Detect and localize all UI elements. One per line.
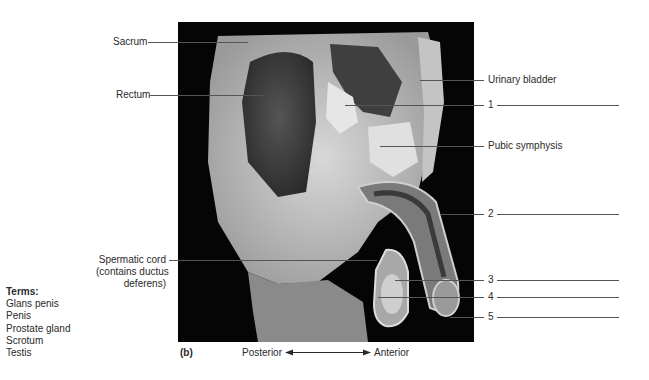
label-urinary-bladder: Urinary bladder [488, 74, 556, 86]
term-item: Testis [6, 347, 71, 359]
term-item: Scrotum [6, 335, 71, 347]
label-spermatic-cord-line3: deferens) [96, 278, 166, 290]
terms-heading: Terms: [6, 286, 71, 298]
answer-line-1[interactable] [497, 105, 619, 106]
orientation-indicator: Posterior Anterior [242, 347, 409, 358]
label-spermatic-cord-line1: Spermatic cord [96, 254, 166, 266]
label-spermatic-cord-line2: (contains ductus [96, 266, 166, 278]
label-sacrum: Sacrum [113, 36, 147, 48]
label-rectum: Rectum [116, 89, 150, 101]
answer-line-4[interactable] [497, 297, 619, 298]
orientation-posterior: Posterior [242, 347, 282, 358]
orientation-anterior: Anterior [374, 347, 409, 358]
label-pubic-symphysis: Pubic symphysis [488, 140, 562, 152]
panel-letter: (b) [180, 347, 193, 358]
blank-number-3: 3 [488, 274, 494, 286]
term-item: Glans penis [6, 298, 71, 310]
answer-line-5[interactable] [497, 317, 619, 318]
leader-line-4 [378, 297, 484, 298]
blank-number-2: 2 [488, 208, 494, 220]
leader-line-pubic-symphysis [380, 146, 484, 147]
term-item: Prostate gland [6, 323, 71, 335]
leader-line-spermatic-cord [169, 260, 377, 261]
terms-list: Terms: Glans penis Penis Prostate gland … [6, 286, 71, 359]
double-arrow-icon [285, 348, 371, 357]
answer-line-2[interactable] [497, 214, 619, 215]
leader-line-rectum [150, 95, 265, 96]
leader-line-5 [450, 317, 484, 318]
answer-line-3[interactable] [497, 280, 619, 281]
leader-line-2 [440, 214, 484, 215]
anatomy-illustration [178, 22, 474, 342]
blank-number-1: 1 [488, 99, 494, 111]
term-item: Penis [6, 310, 71, 322]
leader-line-3 [395, 280, 484, 281]
label-spermatic-cord: Spermatic cord (contains ductus deferens… [96, 254, 166, 290]
blank-number-4: 4 [488, 291, 494, 303]
sagittal-section-photo [178, 22, 474, 342]
leader-line-1 [345, 105, 484, 106]
blank-number-5: 5 [488, 311, 494, 323]
leader-line-sacrum [148, 42, 248, 43]
leader-line-urinary-bladder [420, 80, 484, 81]
